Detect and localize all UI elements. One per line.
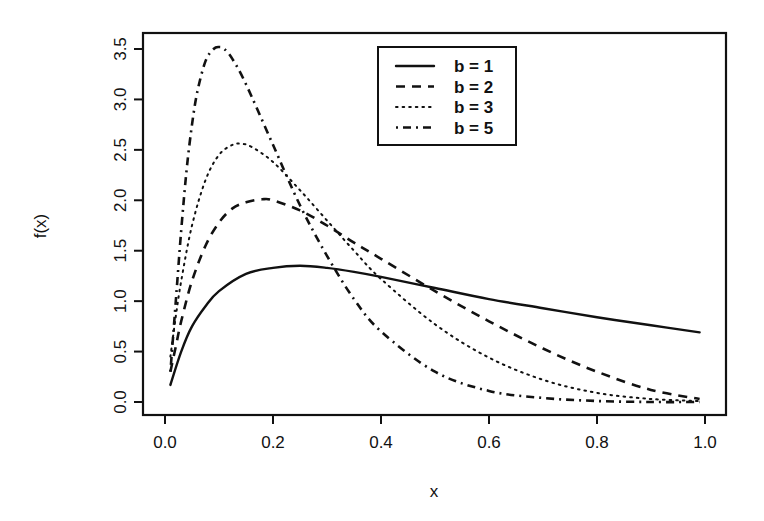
y-tick-label: 2.5 — [111, 138, 130, 162]
y-tick-label: 3.0 — [111, 88, 130, 112]
x-tick-label: 0.8 — [585, 433, 609, 452]
y-axis: 0.00.51.01.52.02.53.03.5 — [111, 37, 143, 414]
legend-label: b = 5 — [454, 119, 493, 138]
y-tick-label: 1.5 — [111, 239, 130, 263]
x-tick-label: 0.0 — [153, 433, 177, 452]
legend-label: b = 3 — [454, 98, 493, 117]
y-tick-label: 2.0 — [111, 188, 130, 212]
x-axis-title: x — [430, 482, 439, 501]
y-tick-label: 1.0 — [111, 289, 130, 313]
y-tick-label: 3.5 — [111, 37, 130, 61]
x-tick-label: 0.4 — [369, 433, 393, 452]
legend-box — [378, 47, 516, 145]
density-chart: 0.00.20.40.60.81.0 0.00.51.01.52.02.53.0… — [0, 0, 764, 521]
legend-label: b = 2 — [454, 78, 493, 97]
legend: b = 1b = 2b = 3b = 5 — [378, 47, 516, 145]
x-tick-label: 0.6 — [477, 433, 501, 452]
y-tick-label: 0.0 — [111, 390, 130, 414]
series-line-b2 — [170, 199, 699, 399]
x-tick-label: 1.0 — [693, 433, 717, 452]
x-axis: 0.00.20.40.60.81.0 — [153, 415, 717, 452]
legend-label: b = 1 — [454, 57, 493, 76]
y-tick-label: 0.5 — [111, 340, 130, 364]
x-tick-label: 0.2 — [261, 433, 285, 452]
y-axis-title: f(x) — [31, 214, 50, 239]
